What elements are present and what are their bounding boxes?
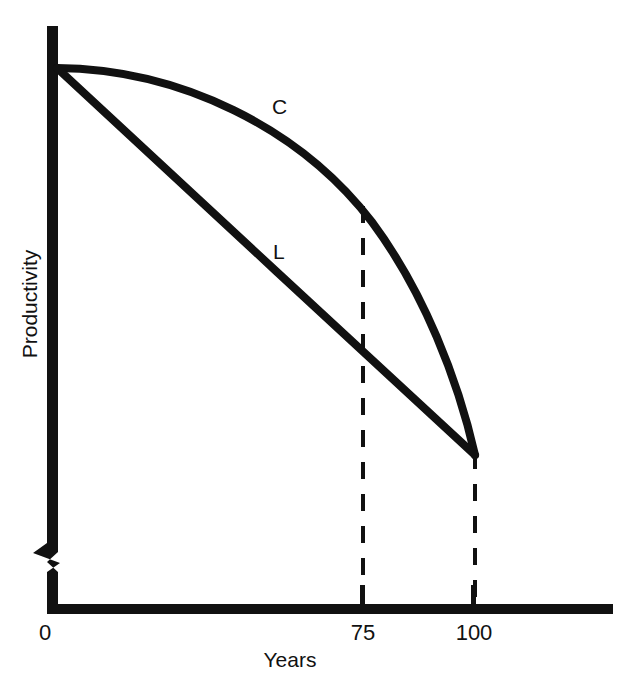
curve-label-c: C [272, 95, 287, 119]
x-axis [47, 585, 613, 614]
curve-label-l: L [273, 240, 285, 264]
y-axis-break-icon [33, 538, 60, 613]
chart-figure: Productivity Years 0 75 100 C L [0, 0, 634, 682]
x-axis-line [47, 604, 613, 614]
y-axis-upper-segment [47, 26, 58, 538]
x-tick-label-0: 0 [25, 620, 65, 646]
plot-area [0, 0, 634, 682]
y-axis-label: Productivity [18, 244, 42, 364]
x-axis-label: Years [230, 648, 350, 672]
x-tick-label-100: 100 [448, 620, 500, 646]
x-tick-label-75: 75 [343, 620, 383, 646]
